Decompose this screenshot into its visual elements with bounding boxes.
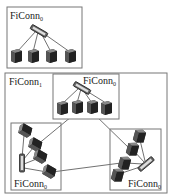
server-icon (101, 101, 112, 115)
server-icon (87, 100, 98, 114)
server-icon (16, 122, 34, 139)
outer-cell-label: FiConn1 (9, 76, 42, 88)
server-icon (132, 128, 146, 144)
server-icon (72, 100, 83, 114)
server-icon (28, 49, 39, 63)
server-icon (57, 101, 68, 115)
top-ficonn0-cell: FiConn0 (7, 7, 82, 68)
ficonn-diagram: FiConn0 FiConn1 FiConn0 (0, 0, 172, 196)
inner-bottom-left-cell-label: FiConn0 (14, 178, 47, 190)
server-icon (65, 49, 76, 63)
switch-icon (20, 154, 25, 172)
server-icon (26, 136, 44, 153)
server-icon (11, 49, 22, 63)
inner-bottom-left-ficonn0-cell: FiConn0 (11, 122, 61, 190)
switch-icon (30, 24, 48, 37)
inter-cell-links (37, 112, 130, 172)
top-cell-label: FiConn0 (10, 10, 43, 22)
server-icon (46, 49, 57, 63)
inner-top-cell-label: FiConn0 (83, 75, 116, 87)
inner-bottom-right-cell-label: FiConn0 (128, 178, 161, 190)
inner-top-ficonn0-cell: FiConn0 (53, 74, 119, 119)
server-icon (31, 148, 49, 165)
